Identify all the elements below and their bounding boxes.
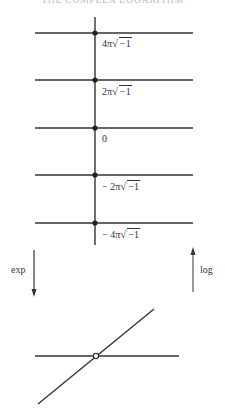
arrow-up-icon: [191, 247, 196, 255]
dot-neg4pi: [92, 220, 97, 225]
upper-diagram: [35, 17, 193, 245]
label-neg2pi: − 2π√−1: [102, 180, 140, 193]
label-radicand: −1: [127, 180, 140, 192]
label-radicand: −1: [127, 228, 140, 240]
origin-open-circle: [93, 353, 98, 358]
arrow-down-icon: [32, 289, 37, 297]
label-neg4pi: − 4π√−1: [102, 228, 140, 241]
label-radicand: −1: [119, 37, 132, 49]
lower-diagram: [35, 309, 179, 404]
label-prefix: − 2π: [102, 181, 120, 192]
dot-4pi: [92, 30, 97, 35]
log-covering-diagram: [0, 0, 225, 417]
label-prefix: 4π: [102, 38, 112, 49]
label-prefix: 2π: [102, 86, 112, 97]
label-radicand: −1: [119, 85, 132, 97]
sqrt-icon: √: [112, 37, 118, 49]
dot-2pi: [92, 77, 97, 82]
dot-0: [92, 125, 97, 130]
sqrt-icon: √: [112, 85, 118, 97]
label-prefix: − 4π: [102, 229, 120, 240]
exp-arrow: [32, 250, 37, 297]
sqrt-icon: √: [120, 180, 126, 192]
label-prefix: 0: [102, 133, 107, 144]
label-2pi: 2π√−1: [102, 85, 132, 98]
log-label: log: [200, 264, 213, 276]
sqrt-icon: √: [120, 228, 126, 240]
label-0: 0: [102, 133, 107, 145]
dot-neg2pi: [92, 172, 97, 177]
log-arrow: [191, 247, 196, 292]
exp-label: exp: [11, 264, 25, 276]
label-4pi: 4π√−1: [102, 37, 132, 50]
